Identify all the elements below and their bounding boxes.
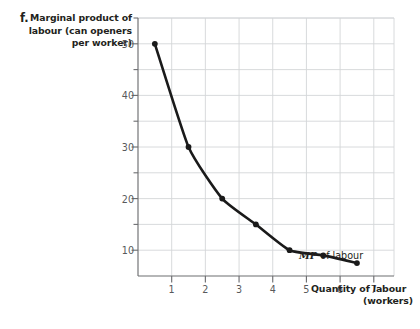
x-tick-label-3: 3 [227,284,251,295]
x-tick-label-1: 1 [160,284,184,295]
x-axis-title-line-2: (workers) [311,295,419,307]
series-annotation-mp-of-labour: MP of labour [299,250,363,261]
figure-panel-f: f. Marginal product of labour (can opene… [0,0,420,329]
series-annotation-text: of labour [317,250,363,261]
series-annotation-symbol: MP [299,250,317,261]
x-tick-label-2: 2 [193,284,217,295]
x-axis-title: Quantity of labour (workers) [311,283,419,306]
x-tick-label-4: 4 [261,284,285,295]
x-tick-labels: 1234567 [0,0,420,329]
x-axis-title-line-1: Quantity of labour [311,283,419,295]
